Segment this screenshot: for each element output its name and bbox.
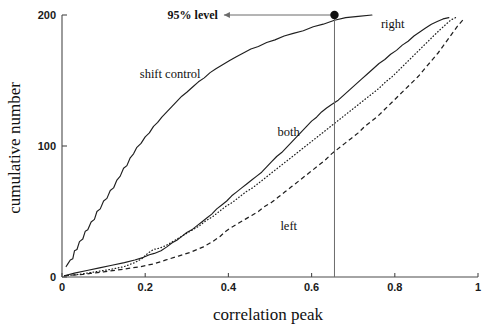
chart-svg: 00.20.40.60.81 0100200 95% level shift c… [0,0,500,327]
y-tick-label: 100 [38,140,56,152]
annotation-label: 95% level [168,8,219,22]
x-tick-label: 0.8 [387,281,402,293]
x-tick-label: 0 [59,281,65,293]
y-axis-title: cumulative number [5,82,24,214]
series-label-both: both [278,125,301,139]
x-tick-label: 0.2 [138,281,153,293]
x-tick-label: 0.4 [221,281,237,293]
series-label-right: right [381,17,405,31]
series-label-left: left [280,219,297,233]
x-tick-label: 1 [475,281,481,293]
y-tick-label: 200 [38,9,56,21]
annotation-marker-dot [330,11,338,19]
x-tick-label: 0.6 [304,281,319,293]
y-tick-label: 0 [50,271,56,283]
x-axis-title: correlation peak [213,305,323,324]
series-label-shift-control: shift control [140,67,201,81]
